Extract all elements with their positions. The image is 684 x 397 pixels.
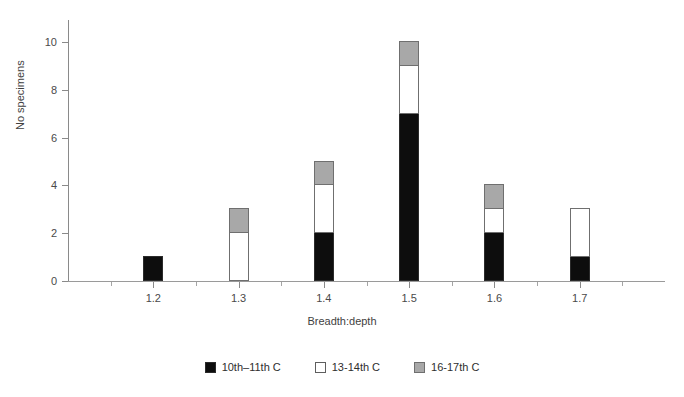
y-axis-title: No specimens bbox=[15, 60, 26, 130]
x-tick-mark bbox=[409, 282, 410, 288]
y-tick-label: 6 bbox=[51, 132, 57, 143]
x-tick-label: 1.3 bbox=[231, 293, 246, 304]
bar-stack[interactable] bbox=[570, 207, 590, 281]
x-axis-title: Breadth:depth bbox=[0, 316, 684, 327]
x-tick-minor bbox=[367, 282, 368, 286]
bar-segment[interactable] bbox=[484, 208, 504, 233]
bar-segment[interactable] bbox=[399, 113, 419, 281]
x-tick-minor bbox=[281, 282, 282, 286]
x-axis-ticks: 1.21.31.41.51.61.7 bbox=[68, 282, 665, 312]
white-swatch-icon bbox=[315, 362, 326, 373]
x-tick-mark bbox=[324, 282, 325, 288]
x-tick-mark bbox=[494, 282, 495, 288]
legend-label: 10th–11th C bbox=[222, 362, 281, 373]
y-tick-label: 8 bbox=[51, 84, 57, 95]
x-tick-mark bbox=[580, 282, 581, 288]
y-tick-label: 4 bbox=[51, 180, 57, 191]
legend-label: 13-14th C bbox=[332, 362, 380, 373]
y-tick-mark bbox=[62, 42, 68, 43]
x-tick-mark bbox=[153, 282, 154, 288]
bar-segment[interactable] bbox=[229, 232, 249, 281]
x-tick-label: 1.5 bbox=[401, 293, 416, 304]
plot-area: 0246810 bbox=[68, 20, 665, 281]
x-tick-minor bbox=[537, 282, 538, 286]
bar-stack[interactable] bbox=[314, 160, 334, 282]
bar-segment[interactable] bbox=[143, 256, 163, 281]
bar-segment[interactable] bbox=[484, 184, 504, 209]
bar-segment[interactable] bbox=[314, 232, 334, 281]
x-tick-mark bbox=[239, 282, 240, 288]
x-tick-minor bbox=[196, 282, 197, 286]
bar-stack[interactable] bbox=[143, 255, 163, 281]
bar-segment[interactable] bbox=[570, 256, 590, 281]
bar-segment[interactable] bbox=[570, 208, 590, 257]
bar-segment[interactable] bbox=[314, 161, 334, 186]
bar-chart: 0246810 1.21.31.41.51.61.7 No specimens … bbox=[0, 0, 684, 397]
bar-stack[interactable] bbox=[484, 183, 504, 281]
y-tick-label: 10 bbox=[45, 37, 57, 48]
x-tick-minor bbox=[111, 282, 112, 286]
x-tick-label: 1.4 bbox=[316, 293, 331, 304]
x-tick-label: 1.2 bbox=[146, 293, 161, 304]
legend-item[interactable]: 10th–11th C bbox=[205, 362, 281, 373]
y-tick-mark bbox=[62, 138, 68, 139]
bar-segment[interactable] bbox=[484, 232, 504, 281]
bar-stack[interactable] bbox=[399, 40, 419, 281]
y-tick-label: 2 bbox=[51, 228, 57, 239]
y-tick-mark bbox=[62, 233, 68, 234]
x-tick-minor bbox=[622, 282, 623, 286]
legend-item[interactable]: 16-17th C bbox=[414, 362, 479, 373]
gray-swatch-icon bbox=[414, 362, 425, 373]
black-swatch-icon bbox=[205, 362, 216, 373]
legend-item[interactable]: 13-14th C bbox=[315, 362, 380, 373]
x-tick-label: 1.6 bbox=[487, 293, 502, 304]
x-tick-label: 1.7 bbox=[572, 293, 587, 304]
bar-stack[interactable] bbox=[229, 207, 249, 281]
chart-legend: 10th–11th C13-14th C16-17th C bbox=[0, 362, 684, 373]
y-tick-mark bbox=[62, 185, 68, 186]
bar-segment[interactable] bbox=[399, 41, 419, 66]
bar-segment[interactable] bbox=[314, 184, 334, 233]
bar-segment[interactable] bbox=[399, 65, 419, 114]
legend-label: 16-17th C bbox=[431, 362, 479, 373]
bar-segment[interactable] bbox=[229, 208, 249, 233]
y-tick-mark bbox=[62, 90, 68, 91]
x-tick-minor bbox=[452, 282, 453, 286]
y-tick-label: 0 bbox=[51, 276, 57, 287]
